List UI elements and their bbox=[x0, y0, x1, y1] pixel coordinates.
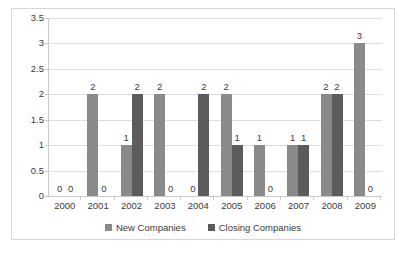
bar-data-label: 0 bbox=[92, 184, 116, 194]
chart-container: 00.511.522.533.5 00201220022110112230 20… bbox=[11, 8, 395, 240]
bar-data-label: 1 bbox=[225, 133, 249, 143]
bar[interactable] bbox=[121, 145, 132, 196]
bar[interactable] bbox=[221, 94, 232, 196]
bar-group: 21 bbox=[215, 18, 248, 196]
bar-slot: 0 bbox=[365, 18, 376, 196]
x-axis-tick-label: 2005 bbox=[215, 201, 248, 217]
bar[interactable] bbox=[198, 94, 209, 196]
bar-slot: 0 bbox=[187, 18, 198, 196]
bar-group: 00 bbox=[49, 18, 82, 196]
x-axis-tick-label: 2000 bbox=[48, 201, 81, 217]
bars: 22 bbox=[315, 18, 347, 196]
bar[interactable] bbox=[332, 94, 343, 196]
bar-slot: 1 bbox=[254, 18, 265, 196]
bar-slot: 1 bbox=[298, 18, 309, 196]
y-axis-tick-label: 1 bbox=[39, 140, 44, 150]
x-axis-tick-label: 2004 bbox=[182, 201, 215, 217]
bar-data-label: 0 bbox=[159, 184, 183, 194]
bar[interactable] bbox=[154, 94, 165, 196]
legend-label: New Companies bbox=[116, 223, 186, 233]
bar-groups: 00201220022110112230 bbox=[49, 18, 382, 196]
x-axis-tick-mark bbox=[280, 196, 281, 200]
plot-area: 00201220022110112230 bbox=[48, 18, 382, 196]
bars: 11 bbox=[282, 18, 314, 196]
y-axis-tick-label: 0 bbox=[39, 191, 44, 201]
bar-group: 10 bbox=[249, 18, 282, 196]
bars: 21 bbox=[215, 18, 247, 196]
bar-slot: 2 bbox=[87, 18, 98, 196]
y-axis: 00.511.522.533.5 bbox=[14, 18, 44, 196]
legend-entry[interactable]: New Companies bbox=[105, 223, 186, 233]
bar-slot: 2 bbox=[332, 18, 343, 196]
plot-wrapper: 00.511.522.533.5 00201220022110112230 20… bbox=[12, 9, 394, 239]
bar-slot: 0 bbox=[165, 18, 176, 196]
x-axis: 2000200120022003200420052006200720082009 bbox=[48, 201, 382, 217]
x-axis-tick-mark bbox=[347, 196, 348, 200]
bar-data-label: 2 bbox=[125, 82, 149, 92]
bars: 20 bbox=[149, 18, 181, 196]
bar-group: 20 bbox=[149, 18, 182, 196]
bar-data-label: 1 bbox=[292, 133, 316, 143]
x-axis-tick-mark bbox=[114, 196, 115, 200]
bar-slot: 0 bbox=[54, 18, 65, 196]
bar-slot: 2 bbox=[198, 18, 209, 196]
legend-label: Closing Companies bbox=[219, 223, 301, 233]
bar-slot: 0 bbox=[65, 18, 76, 196]
bar-slot: 1 bbox=[232, 18, 243, 196]
bar-group: 30 bbox=[349, 18, 382, 196]
bar-slot: 3 bbox=[354, 18, 365, 196]
x-axis-tick-label: 2001 bbox=[81, 201, 114, 217]
bar[interactable] bbox=[321, 94, 332, 196]
x-axis-tick-label: 2003 bbox=[148, 201, 181, 217]
y-axis-tick-mark bbox=[45, 196, 49, 197]
bar-data-label: 2 bbox=[192, 82, 216, 92]
legend-entry[interactable]: Closing Companies bbox=[208, 223, 301, 233]
bar-group: 02 bbox=[182, 18, 215, 196]
bar-group: 11 bbox=[282, 18, 315, 196]
x-axis-tick-label: 2002 bbox=[115, 201, 148, 217]
bars: 10 bbox=[249, 18, 281, 196]
bars: 30 bbox=[349, 18, 381, 196]
x-axis-tick-mark bbox=[147, 196, 148, 200]
y-axis-tick-label: 3.5 bbox=[31, 13, 44, 23]
y-axis-tick-label: 2 bbox=[39, 90, 44, 100]
x-axis-tick-label: 2009 bbox=[349, 201, 382, 217]
bar-slot: 2 bbox=[154, 18, 165, 196]
x-axis-tick-mark bbox=[247, 196, 248, 200]
y-axis-tick-label: 2.5 bbox=[31, 64, 44, 74]
bar-slot: 2 bbox=[221, 18, 232, 196]
bar[interactable] bbox=[354, 43, 365, 196]
bar-slot: 2 bbox=[132, 18, 143, 196]
legend-swatch-icon bbox=[105, 224, 112, 231]
y-axis-tick-label: 0.5 bbox=[31, 166, 44, 176]
bars: 00 bbox=[49, 18, 81, 196]
x-axis-tick-label: 2008 bbox=[315, 201, 348, 217]
bar-group: 22 bbox=[315, 18, 348, 196]
y-axis-tick-label: 1.5 bbox=[31, 115, 44, 125]
x-axis-tick-mark bbox=[380, 196, 381, 200]
legend-swatch-icon bbox=[208, 224, 215, 231]
bar-slot: 1 bbox=[287, 18, 298, 196]
x-axis-tick-label: 2006 bbox=[248, 201, 281, 217]
bar-slot: 0 bbox=[265, 18, 276, 196]
bar[interactable] bbox=[87, 94, 98, 196]
bars: 12 bbox=[116, 18, 148, 196]
bar-data-label: 0 bbox=[59, 184, 83, 194]
bar-slot: 0 bbox=[98, 18, 109, 196]
chart-legend: New CompaniesClosing Companies bbox=[12, 223, 394, 233]
x-axis-tick-mark bbox=[180, 196, 181, 200]
bar-slot: 1 bbox=[121, 18, 132, 196]
bar-group: 12 bbox=[116, 18, 149, 196]
bar-data-label: 2 bbox=[325, 82, 349, 92]
gridline bbox=[49, 196, 382, 197]
bar-slot: 2 bbox=[321, 18, 332, 196]
x-axis-tick-mark bbox=[213, 196, 214, 200]
bar[interactable] bbox=[287, 145, 298, 196]
x-axis-tick-label: 2007 bbox=[282, 201, 315, 217]
x-axis-tick-mark bbox=[313, 196, 314, 200]
bar[interactable] bbox=[232, 145, 243, 196]
bar[interactable] bbox=[132, 94, 143, 196]
y-axis-tick-label: 3 bbox=[39, 39, 44, 49]
x-axis-tick-mark bbox=[80, 196, 81, 200]
bar[interactable] bbox=[298, 145, 309, 196]
